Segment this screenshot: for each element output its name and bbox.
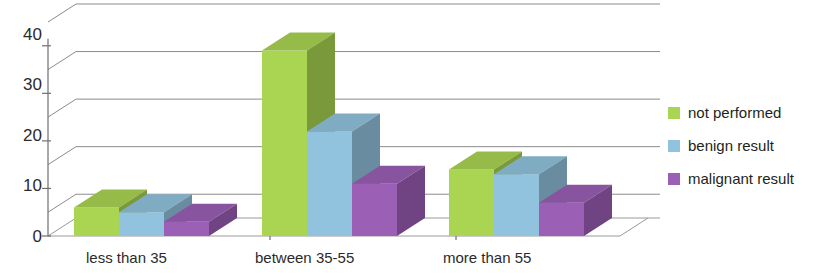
bar-chart: 40 30 20 10 0 less than 35 between 35-55… [0,0,827,277]
y-axis-tick-0: 0 [2,228,42,245]
x-axis-label-group-1: less than 35 [86,249,167,267]
y-axis-tick-30: 30 [2,76,42,93]
x-axis-label-group-3: more than 55 [443,249,531,267]
y-axis-tick-40: 40 [2,26,42,43]
legend-swatch-icon-malignant-result [668,173,680,185]
legend-item-malignant-result: malignant result [668,162,827,195]
y-axis-tick-20: 20 [2,127,42,144]
plot-area: 40 30 20 10 0 less than 35 between 35-55… [0,0,660,277]
legend-swatch-icon-benign-result [668,140,680,152]
legend-item-not-performed: not performed [668,96,827,129]
legend-item-benign-result: benign result [668,129,827,162]
chart-canvas [0,0,660,277]
chart-legend: not performed benign result malignant re… [668,96,827,195]
x-axis-labels: less than 35 between 35-55 more than 55 [0,249,660,275]
legend-label-benign-result: benign result [688,138,774,154]
y-axis-tick-10: 10 [2,177,42,194]
legend-label-malignant-result: malignant result [688,171,794,187]
y-axis-labels: 40 30 20 10 0 [0,0,42,277]
legend-swatch-icon-not-performed [668,107,680,119]
legend-label-not-performed: not performed [688,105,781,121]
x-axis-label-group-2: between 35-55 [255,249,354,267]
